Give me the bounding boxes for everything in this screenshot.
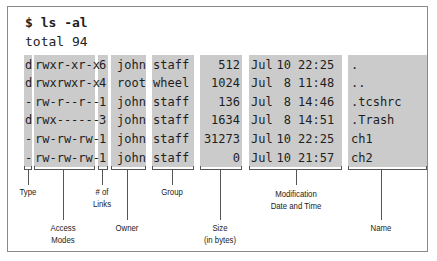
bracket-access-modes — [34, 166, 95, 170]
cell-size: 512 — [200, 56, 240, 75]
cell-month: Jul — [251, 111, 273, 130]
cell-month: Jul — [251, 74, 273, 93]
cell-name: .tcshrc — [351, 93, 425, 112]
cell-group: wheel — [153, 74, 193, 93]
cell-owner: john — [112, 130, 146, 149]
bracket-owner — [111, 166, 146, 170]
bracket-group — [152, 166, 194, 170]
command-line: $ ls -al — [25, 15, 88, 30]
cell-time: 14:51 — [298, 111, 338, 130]
cell-name: ch1 — [351, 130, 425, 149]
stem-access-modes — [63, 170, 64, 220]
cell-name: ch2 — [351, 149, 425, 168]
cell-type: d — [25, 111, 33, 130]
cell-name: .Trash — [351, 111, 425, 130]
cell-links: 4 — [99, 74, 108, 93]
cell-name: . — [351, 56, 425, 75]
cell-mode: rwxr-xr-x — [35, 56, 95, 75]
cell-size: 31273 — [200, 130, 240, 149]
cell-time: 22:25 — [298, 56, 338, 75]
cell-size: 136 — [200, 93, 240, 112]
cell-time: 22:25 — [298, 130, 338, 149]
cell-size: 1634 — [200, 111, 240, 130]
cell-mode: rw-rw-rw- — [35, 149, 95, 168]
cell-mode: rw-rw-rw- — [35, 130, 95, 149]
cell-mode: rw-r--r-- — [35, 93, 95, 112]
label-owner: Owner — [111, 222, 142, 234]
cell-time: 14:46 — [298, 93, 338, 112]
cell-day: 10 — [273, 149, 291, 168]
label-size: Size (in bytes) — [200, 222, 239, 246]
cell-links: 1 — [99, 130, 108, 149]
cell-group: staff — [153, 111, 193, 130]
cell-mode: rwxrwxr-x — [35, 74, 95, 93]
cell-month: Jul — [251, 130, 273, 149]
cell-links: 3 — [99, 111, 108, 130]
cell-month: Jul — [251, 93, 273, 112]
label-links: # of Links — [89, 186, 115, 210]
cell-type: - — [25, 149, 33, 168]
cell-month: Jul — [251, 56, 273, 75]
label-name: Name — [365, 222, 396, 234]
cell-owner: john — [112, 56, 146, 75]
cell-type: - — [25, 130, 33, 149]
cell-day: 10 — [273, 130, 291, 149]
cell-day: 8 — [273, 93, 291, 112]
bracket-name — [348, 166, 427, 170]
cell-day: 8 — [273, 74, 291, 93]
cell-size: 0 — [200, 149, 240, 168]
cell-time: 11:48 — [298, 74, 338, 93]
stem-type — [28, 170, 29, 185]
cell-type: d — [25, 74, 33, 93]
stem-date — [296, 170, 297, 185]
label-group: Group — [154, 186, 190, 198]
total-line: total 94 — [25, 34, 88, 49]
stem-links — [102, 170, 103, 185]
label-type: Type — [13, 186, 43, 198]
cell-owner: john — [112, 149, 146, 168]
cell-owner: john — [112, 111, 146, 130]
cell-group: staff — [153, 130, 193, 149]
stem-size — [220, 170, 221, 220]
stem-owner — [127, 170, 128, 220]
cell-group: staff — [153, 149, 193, 168]
bracket-links — [98, 166, 108, 170]
cell-mode: rwx------ — [35, 111, 95, 130]
cell-links: 1 — [99, 93, 108, 112]
cell-size: 1024 — [200, 74, 240, 93]
stem-group — [172, 170, 173, 185]
cell-type: - — [25, 93, 33, 112]
cell-day: 10 — [273, 56, 291, 75]
cell-name: .. — [351, 74, 425, 93]
cell-month: Jul — [251, 149, 273, 168]
stem-name — [381, 170, 382, 220]
cell-group: staff — [153, 93, 193, 112]
label-access-modes: Access Modes — [44, 222, 82, 246]
label-modification: Modification Date and Time — [263, 188, 329, 212]
cell-owner: root — [112, 74, 146, 93]
cell-links: 1 — [99, 149, 108, 168]
cell-owner: john — [112, 93, 146, 112]
cell-links: 6 — [99, 56, 108, 75]
cell-type: d — [25, 56, 33, 75]
cell-time: 21:57 — [298, 149, 338, 168]
cell-group: staff — [153, 56, 193, 75]
bracket-size — [200, 166, 242, 170]
cell-day: 8 — [273, 111, 291, 130]
